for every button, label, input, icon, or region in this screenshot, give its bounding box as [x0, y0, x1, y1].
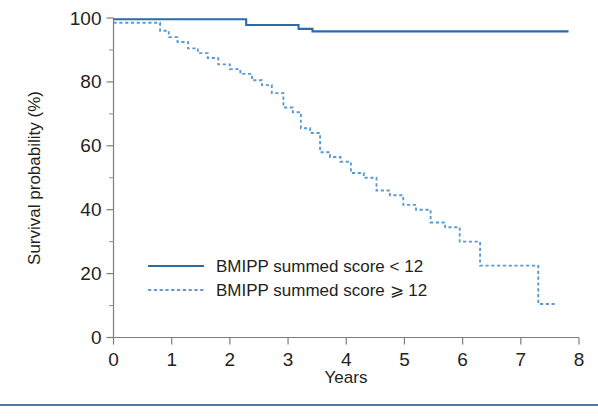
- y-tick-label-40: 40: [80, 199, 101, 220]
- y-axis-title: Survival probability (%): [25, 91, 44, 265]
- legend-label-2: BMIPP summed score ⩾ 12: [216, 281, 427, 300]
- y-tick-label-80: 80: [80, 71, 101, 92]
- figure-root: 020406080100 012345678 Years Survival pr…: [0, 0, 598, 417]
- x-tick-label-6: 6: [457, 349, 468, 370]
- x-axis-title: Years: [325, 368, 368, 387]
- y-axis-tick-labels: 020406080100: [70, 8, 102, 349]
- legend-label-1: BMIPP summed score < 12: [216, 257, 423, 276]
- x-tick-label-7: 7: [516, 349, 527, 370]
- x-tick-label-5: 5: [399, 349, 410, 370]
- y-tick-label-20: 20: [80, 263, 101, 284]
- x-tick-label-4: 4: [341, 349, 352, 370]
- y-tick-label-0: 0: [91, 327, 102, 348]
- x-tick-label-3: 3: [283, 349, 294, 370]
- y-axis-minor-ticks: [109, 50, 114, 306]
- x-tick-label-2: 2: [225, 349, 236, 370]
- x-tick-label-0: 0: [108, 349, 119, 370]
- x-axis-ticks: [114, 338, 580, 345]
- y-tick-label-60: 60: [80, 135, 101, 156]
- x-tick-label-1: 1: [166, 349, 177, 370]
- footer-divider: [0, 404, 598, 406]
- x-tick-label-8: 8: [574, 349, 585, 370]
- y-tick-label-100: 100: [70, 8, 102, 29]
- survival-chart: 020406080100 012345678 Years Survival pr…: [0, 0, 598, 417]
- x-axis-tick-labels: 012345678: [108, 349, 584, 370]
